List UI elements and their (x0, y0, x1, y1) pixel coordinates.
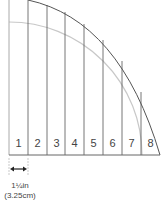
strip-label-2: 2 (28, 137, 47, 149)
arrowhead-right-icon (23, 167, 27, 172)
strip-label-5: 5 (84, 137, 103, 149)
strip-label-8: 8 (141, 137, 160, 149)
strip-label-7: 7 (122, 137, 141, 149)
arrowhead-left-icon (10, 167, 14, 172)
strip-width-metric: (3.25cm) (0, 191, 40, 201)
strip-width-imperial: 1¼in (0, 181, 40, 191)
pattern-diagram (0, 0, 168, 201)
strip-label-3: 3 (47, 137, 66, 149)
strip-label-4: 4 (65, 137, 84, 149)
strip-label-6: 6 (103, 137, 122, 149)
strip-label-1: 1 (9, 137, 28, 149)
